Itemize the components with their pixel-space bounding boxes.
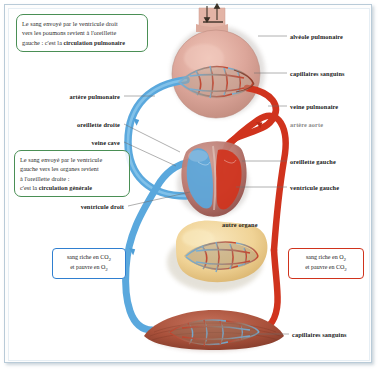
- legend-oxygenated-blood: sang riche en O2 et pauvre en CO2: [288, 248, 364, 279]
- lung-organ: [172, 8, 260, 118]
- legend-deoxy-sub1: 2: [109, 257, 112, 262]
- label-oreillette-gauche: oreillette gauche: [290, 158, 336, 165]
- label-veine-cave: veine cave: [54, 139, 120, 146]
- callout-general-line1: Le sang envoyé par le ventricule: [20, 156, 102, 163]
- callout-pulmonary-circulation: Le sang envoyé par le ventricule droit v…: [16, 14, 148, 52]
- label-ventricule-gauche: ventricule gauche: [290, 184, 339, 191]
- legend-oxy-sub2: 2: [344, 268, 347, 273]
- label-ventricule-droit: ventricule droit: [50, 203, 124, 210]
- label-veine-pulmonaire: veine pulmonaire: [290, 103, 338, 110]
- label-artere-pulmonaire: artère pulmonaire: [42, 93, 120, 100]
- callout-pulmonary-line3: gauche : c'est la: [22, 39, 64, 46]
- muscle-organ: [144, 310, 284, 350]
- callout-general-line3: à l'oreillette droite :: [20, 175, 70, 182]
- label-capillaires-sanguins-muscle: capillaires sanguins: [292, 331, 347, 338]
- legend-oxy-line2: et pauvre en CO: [305, 264, 344, 270]
- legend-deoxy-sub2: 2: [105, 268, 108, 273]
- callout-general-line4: c'est la: [20, 184, 39, 191]
- callout-general-circulation: Le sang envoyé par le ventricule gauche …: [14, 150, 130, 197]
- legend-deoxygenated-blood: sang riche en CO2 et pauvre en O2: [52, 248, 126, 279]
- label-artere-aorte: artère aorte: [290, 121, 323, 128]
- label-oreillette-droite: oreillette droite: [52, 121, 120, 128]
- callout-pulmonary-term: circulation pulmonaire: [64, 39, 126, 46]
- legend-deoxy-line2: et pauvre en O: [70, 264, 105, 270]
- label-autre-organe: autre organe: [222, 221, 258, 228]
- legend-oxy-sub1: 2: [344, 257, 347, 262]
- circulation-diagram-page: Le sang envoyé par le ventricule droit v…: [0, 0, 380, 371]
- label-capillaires-sanguins-lung: capillaires sanguins: [290, 70, 345, 77]
- callout-general-line2: gauche vers les organes revient: [20, 165, 99, 172]
- pulmonary-artery-vessel: [128, 80, 186, 196]
- label-alveole-pulmonaire: alvéole pulmonaire: [290, 33, 343, 40]
- callout-pulmonary-line2: vers les poumons revient à l'oreillette: [22, 29, 116, 36]
- legend-deoxy-line1: sang riche en CO: [67, 254, 109, 260]
- legend-oxy-line1: sang riche en O: [306, 254, 344, 260]
- callout-general-term: circulation générale: [39, 184, 92, 191]
- callout-pulmonary-line1: Le sang envoyé par le ventricule droit: [22, 20, 118, 27]
